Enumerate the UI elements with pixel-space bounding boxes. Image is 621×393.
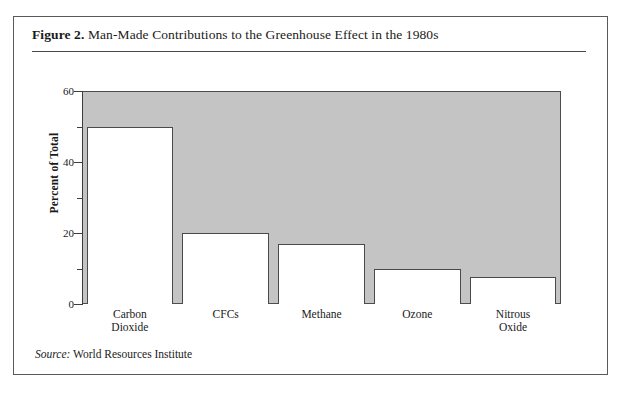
source-value: World Resources Institute xyxy=(70,348,192,360)
source-note: Source: World Resources Institute xyxy=(35,347,192,361)
x-label-line: Nitrous xyxy=(452,308,575,321)
bar-ozone xyxy=(374,269,461,305)
bar-cfcs xyxy=(182,233,269,304)
figure-frame: Figure 2. Man-Made Contributions to the … xyxy=(13,16,608,375)
bars-group xyxy=(82,91,561,304)
x-label-line: Oxide xyxy=(452,321,575,334)
bar-chart: 0204060 Percent of Total CarbonDioxideCF… xyxy=(14,17,609,376)
y-tick-0 xyxy=(74,304,83,305)
x-label-nitrous-oxide: NitrousOxide xyxy=(452,308,575,333)
bar-methane xyxy=(278,244,365,304)
bar-carbon-dioxide xyxy=(87,127,174,305)
bar-nitrous-oxide xyxy=(470,277,557,304)
y-tick-label-60: 60 xyxy=(48,86,74,97)
x-label-line: Dioxide xyxy=(69,321,192,334)
y-axis-title: Percent of Total xyxy=(48,113,60,233)
source-label: Source: xyxy=(35,348,70,360)
